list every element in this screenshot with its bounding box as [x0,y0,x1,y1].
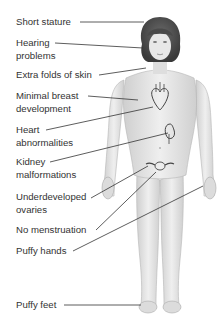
left-leg [137,170,160,305]
body [102,17,216,313]
navel [159,147,161,149]
left-eye [153,41,157,43]
label-no-menstruation: No menstruation [16,224,86,237]
label-puffy-feet: Puffy feet [16,299,56,312]
right-eye [163,41,167,43]
leader-hearing-problems [55,43,143,48]
left-foot [139,301,157,313]
label-hearing-problems: Hearing problems [16,37,55,62]
label-underdeveloped-ovaries: Underdeveloped ovaries [16,191,86,216]
label-minimal-breast-development: Minimal breast development [16,90,78,115]
face [149,32,171,60]
label-puffy-hands: Puffy hands [16,245,67,258]
right-leg [160,170,183,305]
label-heart-abnormalities: Heart abnormalities [16,124,73,149]
label-short-stature: Short stature [16,16,71,29]
label-kidney-malformations: Kidney malformations [16,156,76,181]
label-extra-folds-of-skin: Extra folds of skin [16,69,92,82]
right-foot [163,301,181,313]
right-hand [204,177,216,199]
